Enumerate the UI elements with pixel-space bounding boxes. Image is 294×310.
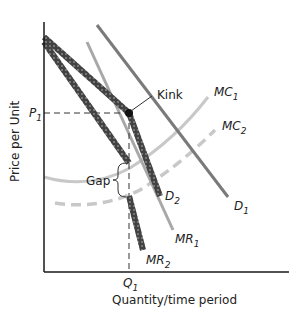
- d1-curve: [97, 25, 228, 197]
- d2-label: D2: [165, 189, 180, 206]
- d1-label: D1: [234, 199, 249, 216]
- kinked-demand-diagram: Kink Gap MC1 MC2 D2 D1 MR1 MR2 P1 Q1 Qua…: [0, 0, 294, 310]
- mr2-label: MR2: [146, 253, 171, 270]
- p1-tick-label: P1: [29, 106, 42, 123]
- kink-pointer: [131, 96, 152, 111]
- gap-brace: [113, 163, 126, 197]
- mr1-label: MR1: [175, 232, 199, 249]
- d2-curve-outline: [129, 113, 160, 196]
- y-axis-title: Price per Unit: [8, 100, 22, 182]
- mc2-label: MC2: [222, 119, 247, 136]
- gap-label: Gap: [86, 174, 110, 188]
- kink-label: Kink: [157, 88, 183, 102]
- q1-tick-label: Q1: [123, 276, 138, 293]
- x-axis-title: Quantity/time period: [112, 293, 237, 307]
- mc2-curve: [55, 130, 215, 205]
- mc1-label: MC1: [214, 85, 238, 102]
- mr2-curve-outline: [129, 196, 143, 250]
